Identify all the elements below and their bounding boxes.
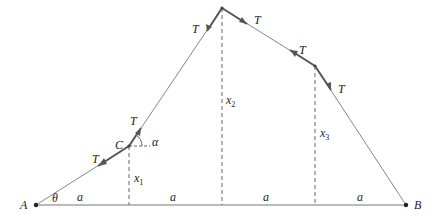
label-tension-5: T	[299, 43, 307, 57]
point-c	[127, 144, 130, 147]
label-x2: x2	[225, 93, 235, 109]
label-b: B	[414, 198, 422, 212]
label-x1: x1	[133, 171, 143, 187]
label-tension-1: T	[92, 152, 100, 166]
point-p3	[313, 64, 316, 67]
point-a	[34, 203, 38, 207]
label-theta: θ	[52, 191, 58, 205]
string-tension-diagram: A B C θ α T T T T T T x1 x2 x3 a a a a	[0, 0, 436, 216]
label-tension-6: T	[338, 82, 346, 96]
label-spacing-4: a	[357, 190, 363, 204]
label-spacing-3: a	[263, 190, 269, 204]
label-tension-4: T	[254, 13, 262, 27]
alpha-arc	[136, 135, 142, 146]
label-c: C	[115, 138, 124, 152]
point-b	[404, 203, 408, 207]
arrow-icon	[98, 158, 107, 166]
label-alpha: α	[152, 135, 159, 149]
point-top	[220, 6, 223, 9]
label-spacing-1: a	[77, 190, 83, 204]
arrow-icon	[239, 17, 247, 24]
label-spacing-2: a	[170, 190, 176, 204]
label-tension-2: T	[130, 114, 138, 128]
label-a: A	[19, 198, 28, 212]
label-x3: x3	[319, 126, 329, 142]
label-tension-3: T	[192, 22, 200, 36]
